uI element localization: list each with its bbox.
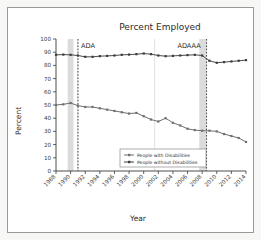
legend-swatch-marker-1: [128, 161, 130, 163]
x-tick-label: 2002: [145, 173, 159, 187]
data-point: [106, 55, 108, 57]
x-tick-label: 1994: [86, 173, 101, 188]
chart-title: Percent Employed: [119, 22, 200, 32]
y-tick-label: 100: [40, 36, 51, 42]
data-point: [150, 53, 152, 55]
data-point: [70, 54, 72, 56]
data-point: [245, 141, 247, 143]
data-point: [77, 105, 79, 107]
data-point: [194, 129, 196, 131]
data-point: [216, 130, 218, 132]
data-point: [121, 111, 123, 113]
x-tick-label: 2008: [189, 173, 204, 188]
legend-label-1: People without Disabilities: [137, 160, 198, 165]
data-point: [99, 107, 101, 109]
data-point: [165, 55, 167, 57]
data-point: [77, 54, 79, 56]
data-point: [230, 135, 232, 137]
legend-label-0: People with Disabilities: [137, 153, 191, 158]
data-point: [99, 55, 101, 57]
legend-swatch-marker-0: [128, 154, 130, 156]
data-point: [91, 56, 93, 58]
data-point: [201, 54, 203, 56]
x-tick-label: 2014: [232, 173, 247, 188]
data-point: [113, 110, 115, 112]
data-point: [62, 103, 64, 105]
data-point: [84, 56, 86, 58]
x-tick-label: 2004: [159, 173, 174, 188]
x-tick-label: 2012: [218, 173, 232, 187]
annotation-label-adaaa: ADAAA: [177, 42, 201, 50]
data-point: [201, 130, 203, 132]
data-point: [186, 54, 188, 56]
x-tick-label: 2006: [174, 173, 189, 188]
data-point: [135, 112, 137, 114]
y-tick-label: 80: [44, 62, 52, 68]
annotation-labels: ADAADAAA: [81, 42, 201, 50]
data-point: [157, 120, 159, 122]
data-point: [62, 53, 64, 55]
data-point: [113, 54, 115, 56]
x-tick-label: 2000: [130, 173, 145, 188]
data-point: [172, 122, 174, 124]
data-point: [223, 133, 225, 135]
x-tick-label: 2010: [203, 173, 218, 188]
data-point: [238, 137, 240, 139]
data-point: [216, 62, 218, 64]
data-point: [194, 54, 196, 56]
data-point: [230, 60, 232, 62]
percent-employed-chart: 0102030405060708090100 19881990199219941…: [8, 8, 255, 234]
data-point: [91, 106, 93, 108]
data-point: [55, 104, 57, 106]
screenshot-frame: 0102030405060708090100 19881990199219941…: [0, 0, 261, 240]
data-point: [84, 106, 86, 108]
y-tick-label: 70: [44, 76, 52, 82]
x-axis-label: Year: [129, 214, 147, 223]
x-tick-label: 1998: [115, 173, 130, 188]
y-axis: 0102030405060708090100: [40, 36, 56, 174]
data-point: [70, 102, 72, 104]
data-point: [186, 128, 188, 130]
data-point: [121, 54, 123, 56]
data-point: [143, 52, 145, 54]
data-point: [128, 53, 130, 55]
data-point: [238, 60, 240, 62]
data-point: [150, 118, 152, 120]
data-point: [143, 115, 145, 117]
y-tick-label: 10: [44, 155, 52, 161]
data-point: [208, 130, 210, 132]
data-point: [55, 54, 57, 56]
y-tick-label: 20: [44, 142, 52, 148]
y-tick-label: 40: [44, 115, 52, 121]
x-tick-label: 1988: [42, 173, 57, 188]
y-tick-label: 60: [44, 89, 52, 95]
recession-band-1990: [68, 39, 74, 171]
data-point: [135, 53, 137, 55]
chart-legend[interactable]: People with DisabilitiesPeople without D…: [120, 149, 206, 167]
data-point: [106, 109, 108, 111]
y-tick-label: 0: [47, 168, 51, 174]
y-tick-label: 50: [44, 102, 52, 108]
data-point: [179, 54, 181, 56]
data-point: [128, 112, 130, 114]
data-point: [208, 60, 210, 62]
data-point: [179, 124, 181, 126]
x-tick-label: 1992: [72, 173, 86, 187]
data-point: [172, 55, 174, 57]
chart-card: 0102030405060708090100 19881990199219941…: [7, 7, 254, 233]
x-tick-label: 1990: [57, 173, 72, 188]
data-point: [245, 59, 247, 61]
y-axis-label: Percent: [14, 107, 23, 135]
x-tick-label: 1996: [101, 173, 116, 188]
y-tick-label: 90: [44, 49, 52, 55]
annotation-label-ada: ADA: [81, 42, 95, 50]
x-axis: 1988199019921994199619982000200220042006…: [42, 171, 247, 188]
data-point: [165, 117, 167, 119]
data-point: [157, 54, 159, 56]
data-series: [55, 52, 247, 143]
y-tick-label: 30: [44, 128, 52, 134]
data-point: [223, 61, 225, 63]
series-line-0: [56, 103, 246, 142]
